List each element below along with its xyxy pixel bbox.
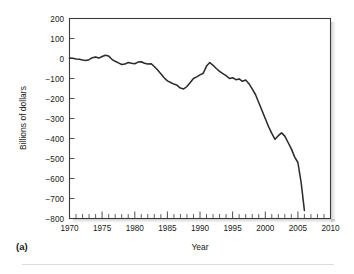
data-series-line [70,55,305,210]
x-tick-labels: 1970 1975 1980 1985 1990 1995 2000 2005 … [60,224,340,233]
y-tick-label: −100 [46,75,65,84]
x-tick-label: 1995 [223,224,242,233]
y-tick-label: −400 [46,135,65,144]
panel-label: (a) [16,241,28,252]
x-tick-label: 1970 [60,224,79,233]
x-tick-label: 2000 [256,224,275,233]
x-tick-label: 1990 [191,224,210,233]
figure-panel: 200 100 0 −100 −200 −300 −400 −500 −600 … [0,0,354,274]
y-tick-label: −200 [46,95,65,104]
y-tick-label: 0 [59,55,64,64]
x-tick-label: 2005 [289,224,308,233]
y-axis-ticks [70,19,75,219]
footer-divider [22,264,334,265]
y-tick-label: −500 [46,155,65,164]
y-tick-label: −600 [46,175,65,184]
x-tick-label: 1975 [93,224,112,233]
y-axis-title: Billions of dollars [18,86,28,150]
plot-frame [70,19,331,219]
y-tick-label: 200 [50,15,64,24]
trade-balance-line-chart: 200 100 0 −100 −200 −300 −400 −500 −600 … [0,0,354,274]
y-tick-label: −700 [46,195,65,204]
y-tick-label: 100 [50,35,64,44]
x-tick-label: 1985 [158,224,177,233]
y-tick-labels: 200 100 0 −100 −200 −300 −400 −500 −600 … [46,15,65,224]
x-tick-label: 1980 [126,224,145,233]
y-tick-label: −800 [46,215,65,224]
x-tick-label: 2010 [321,224,340,233]
x-axis-title: Year [191,242,208,252]
y-tick-label: −300 [46,115,65,124]
